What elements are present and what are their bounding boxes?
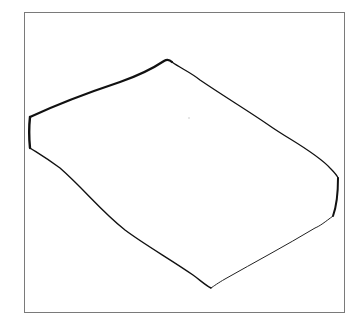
box-outline-drawing [0,0,360,327]
top-right-edge [172,62,338,178]
right-side-edge [333,178,338,216]
top-left-edge [30,60,172,117]
bottom-right-edge [211,216,333,288]
left-side-edge [29,117,30,148]
bottom-left-edge [30,148,211,288]
speck [188,117,189,118]
